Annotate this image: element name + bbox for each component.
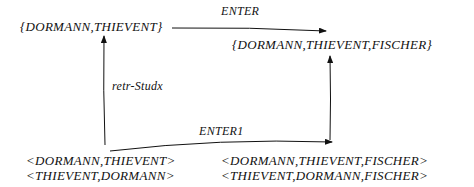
commutative-diagram: {DORMANN,THIEVENT} ENTER {DORMANN,THIEVE… xyxy=(0,0,474,187)
right-vertical-arrow xyxy=(330,56,331,140)
enter1-label: ENTER1 xyxy=(199,124,243,139)
enter1-arrow xyxy=(110,141,332,151)
retr-studx-label: retr-Studx xyxy=(112,79,163,94)
enter-label: ENTER xyxy=(221,4,259,19)
top-right-set: {DORMANN,THIEVENT,FISCHER} xyxy=(232,37,432,53)
bottom-right-tuple-2: <THIEVENT,DORMANN,FISCHER> xyxy=(221,168,428,184)
bottom-left-tuple-1: <DORMANN,THIEVENT> xyxy=(26,153,176,169)
enter-arrow xyxy=(172,28,326,31)
retr-studx-arrow xyxy=(104,36,105,145)
bottom-right-tuple-1: <DORMANN,THIEVENT,FISCHER> xyxy=(221,153,428,169)
bottom-left-tuple-2: <THIEVENT,DORMANN> xyxy=(26,168,175,184)
top-left-set: {DORMANN,THIEVENT} xyxy=(20,19,163,35)
